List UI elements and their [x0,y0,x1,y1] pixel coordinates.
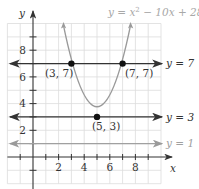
label-y1: y = 1 [165,137,194,149]
x-tick-label-6: 6 [106,161,113,173]
y-axis-label: y [18,7,26,19]
y-tick-label-6: 6 [19,71,26,83]
x-tick-label-8: 8 [132,161,139,173]
y-tick-label-4: 4 [19,97,26,109]
point-3-7 [68,60,74,66]
point-7-7 [119,60,125,66]
y-tick-label-8: 8 [19,44,26,56]
graph: 2 4 6 8 8 6 4 2 x y (3, 7) (7, 7) (5, 3)… [0,0,199,189]
x-tick-label-4: 4 [81,161,88,173]
x-axis-label: x [170,162,176,174]
point-label-3-7: (3, 7) [45,67,73,79]
y-tick-label-2: 2 [19,124,26,136]
x-tick-label-2: 2 [55,161,62,173]
label-y3: y = 3 [165,111,194,123]
label-y7: y = 7 [165,57,194,69]
label-parabola: y = x2 − 10x + 28 [107,6,199,18]
point-label-5-3: (5, 3) [92,120,120,132]
point-label-7-7: (7, 7) [125,67,153,79]
